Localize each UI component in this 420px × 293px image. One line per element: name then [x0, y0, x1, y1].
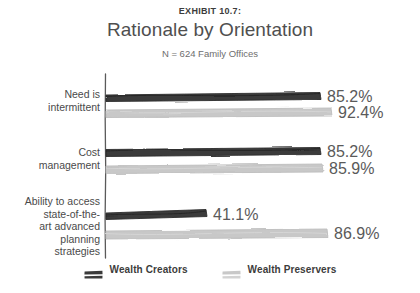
value-label-preservers-2: 86.9%: [334, 226, 379, 242]
bar-creators-0: [106, 93, 321, 102]
value-label-preservers-1: 85.9%: [329, 161, 374, 177]
category-label-need-is-intermittent: Need is intermittent: [48, 88, 100, 113]
bar-creators-1: [106, 148, 321, 157]
chart-legend: Wealth Creators Wealth Preservers: [0, 264, 420, 275]
value-label-creators-0: 85.2%: [327, 89, 372, 105]
bar-creators-2: [106, 210, 207, 220]
legend-item-wealth-creators[interactable]: Wealth Creators: [84, 264, 188, 275]
legend-label-wealth-creators: Wealth Creators: [110, 264, 188, 275]
legend-swatch-icon: [222, 265, 241, 274]
value-label-creators-1: 85.2%: [327, 144, 372, 160]
category-label-ability-to-access: Ability to access state-of-the- art adva…: [25, 195, 100, 258]
legend-label-wealth-preservers: Wealth Preservers: [248, 264, 337, 275]
bar-preservers-2: [106, 229, 328, 239]
value-label-preservers-0: 92.4%: [338, 105, 383, 121]
bar-preservers-1: [106, 164, 323, 174]
legend-item-wealth-preservers[interactable]: Wealth Preservers: [222, 264, 337, 275]
legend-swatch-icon: [84, 265, 103, 274]
category-label-cost-management: Cost management: [39, 146, 100, 171]
value-label-creators-2: 41.1%: [213, 207, 258, 223]
bar-preservers-0: [106, 108, 332, 118]
chart-container: EXHIBIT 10.7: Rationale by Orientation N…: [0, 0, 420, 293]
